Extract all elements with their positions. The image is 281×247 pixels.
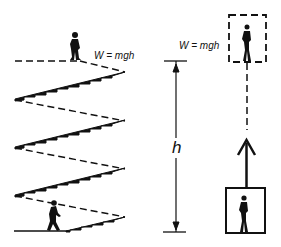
- height-label: h: [171, 138, 182, 158]
- lift-path: [238, 63, 255, 188]
- left-equation: W = mgh: [94, 50, 134, 61]
- right-equation: W = mgh: [179, 40, 219, 51]
- person-top-icon: [70, 32, 81, 60]
- work-diagram: [0, 0, 281, 247]
- person-lifted-icon: [242, 25, 251, 62]
- staircase: [14, 61, 125, 232]
- person-start-icon: [239, 195, 248, 232]
